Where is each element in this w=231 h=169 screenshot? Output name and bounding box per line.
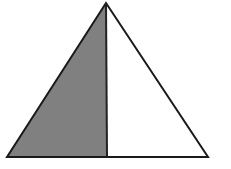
- figure-canvas: [0, 0, 231, 169]
- triangle-diagram: [0, 0, 231, 169]
- altitude-divider-line: [106, 3, 107, 157]
